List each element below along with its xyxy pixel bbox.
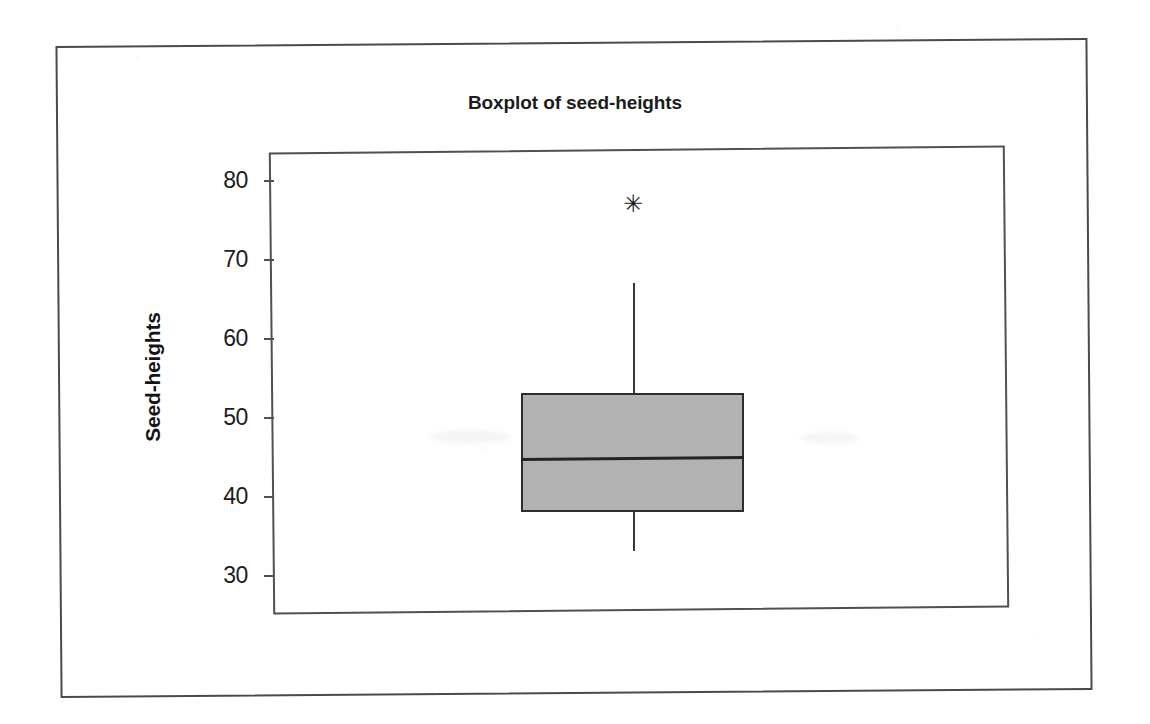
y-tick-mark	[264, 417, 274, 419]
y-tick-mark	[264, 575, 274, 577]
y-tick-mark	[264, 338, 274, 340]
outlier-asterisk-marker: ✳	[623, 192, 643, 216]
interquartile-box	[521, 393, 744, 512]
y-tick-mark	[264, 496, 274, 498]
upper-whisker	[633, 283, 635, 398]
scan-smudge	[430, 430, 510, 444]
y-tick-mark	[264, 180, 274, 182]
lower-whisker	[633, 508, 635, 552]
boxplot-plot-layer: ✳	[0, 0, 1150, 724]
scan-smudge	[800, 432, 860, 444]
y-tick-mark	[264, 259, 274, 261]
